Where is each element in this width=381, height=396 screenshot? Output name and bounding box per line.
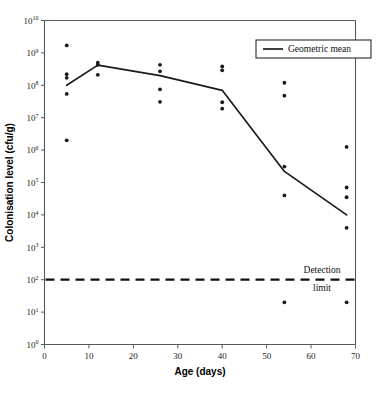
data-point <box>345 186 349 190</box>
data-point <box>220 107 224 111</box>
detection-limit-label-line2: limit <box>313 283 331 293</box>
data-point <box>345 226 349 230</box>
x-tick-label: 40 <box>218 351 228 361</box>
y-tick-label: 109 <box>27 48 39 58</box>
data-point <box>158 87 162 91</box>
data-point <box>96 63 100 67</box>
y-tick-label: 105 <box>27 177 39 187</box>
data-point <box>65 138 69 142</box>
legend-entry-label: Geometric mean <box>288 44 351 54</box>
x-tick-label: 70 <box>351 351 361 361</box>
data-point <box>345 145 349 149</box>
data-point <box>345 195 349 199</box>
data-point <box>65 92 69 96</box>
x-axis-title: Age (days) <box>174 366 225 377</box>
x-tick-label: 60 <box>307 351 317 361</box>
legend: Geometric mean <box>256 40 371 58</box>
y-axis-ticks: 1001011021031041051061071081091010 <box>24 15 45 349</box>
data-point <box>220 100 224 104</box>
x-axis-ticks: 010203040506070 <box>42 345 360 361</box>
detection-limit-annotation: Detectionlimit <box>46 265 355 293</box>
data-point <box>283 81 287 85</box>
data-point <box>158 100 162 104</box>
y-tick-label: 108 <box>27 80 39 90</box>
y-tick-label: 101 <box>27 307 39 317</box>
x-tick-label: 50 <box>262 351 272 361</box>
geometric-mean-path <box>67 65 347 215</box>
data-point <box>220 68 224 72</box>
data-point <box>283 193 287 197</box>
y-axis-title: Colonisation level (cfu/g) <box>4 123 15 242</box>
data-point <box>283 300 287 304</box>
x-tick-label: 0 <box>42 351 47 361</box>
geometric-mean-line <box>67 65 347 215</box>
data-point <box>158 63 162 67</box>
detection-limit-label-line1: Detection <box>304 265 341 275</box>
x-tick-label: 20 <box>129 351 139 361</box>
data-point <box>65 72 69 76</box>
colonisation-level-chart: 1001011021031041051061071081091010010203… <box>0 0 381 396</box>
y-tick-label: 1010 <box>24 15 39 25</box>
y-tick-label: 104 <box>27 210 39 220</box>
y-tick-label: 100 <box>27 339 39 349</box>
data-point <box>283 94 287 98</box>
y-tick-label: 106 <box>27 145 39 155</box>
x-tick-label: 10 <box>84 351 94 361</box>
data-point <box>96 73 100 77</box>
data-point <box>283 165 287 169</box>
data-point <box>220 65 224 69</box>
x-tick-label: 30 <box>173 351 183 361</box>
data-point <box>158 69 162 73</box>
y-tick-label: 103 <box>27 242 39 252</box>
chart-container: 1001011021031041051061071081091010010203… <box>0 0 381 396</box>
y-tick-label: 102 <box>27 275 39 285</box>
data-point <box>65 76 69 80</box>
y-tick-label: 107 <box>27 113 39 123</box>
data-point <box>345 300 349 304</box>
data-point <box>65 44 69 48</box>
